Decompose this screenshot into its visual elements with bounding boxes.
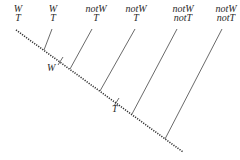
marker-w-label: W [47, 62, 55, 73]
tree-lines [0, 0, 240, 160]
branch-2 [44, 29, 52, 50]
branch-4 [100, 29, 135, 91]
branch-3 [70, 29, 92, 69]
branch-5 [132, 29, 177, 114]
branch-6 [165, 29, 222, 139]
main-trunk-line [16, 30, 183, 152]
marker-t-label: T [112, 103, 118, 114]
